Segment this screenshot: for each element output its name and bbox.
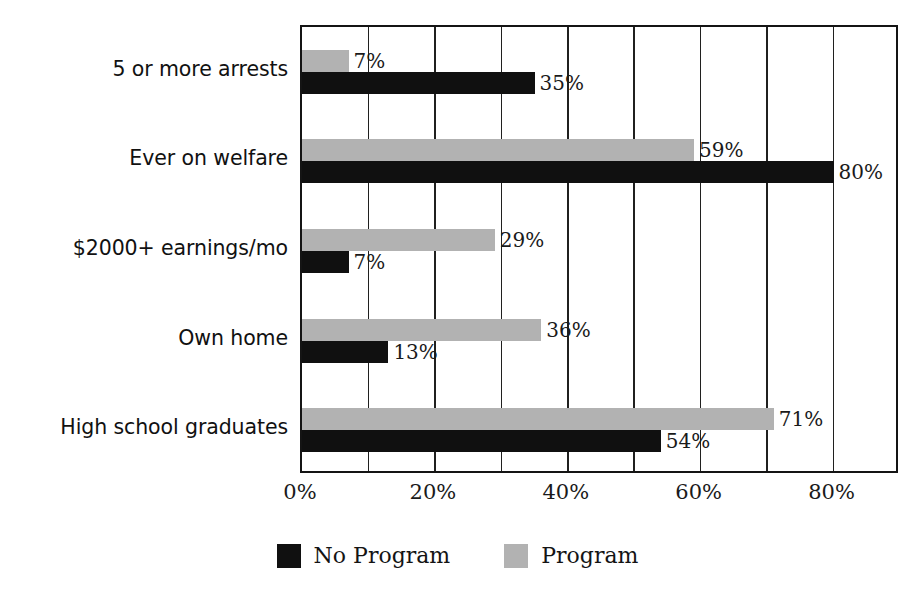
bar-value-program-4: 71%: [774, 408, 823, 430]
category-label-earnings: $2000+ earnings/mo: [0, 238, 288, 259]
bar-value-program-0: 7%: [349, 50, 386, 72]
bar-value-no-program-2: 7%: [349, 251, 386, 273]
legend-label-no-program: No Program: [314, 545, 451, 567]
category-label-hs-graduates: High school graduates: [0, 417, 288, 438]
bar-value-no-program-3: 13%: [388, 341, 437, 363]
bar-program-1: [302, 139, 694, 161]
x-tick-label-60: 60%: [675, 481, 722, 503]
plot-area: 7%35%59%80%29%7%36%13%71%54%: [300, 25, 898, 473]
bar-no-program-0: [302, 72, 535, 94]
bar-value-program-2: 29%: [495, 229, 544, 251]
legend-swatch-no-program: [277, 544, 301, 568]
bar-value-no-program-0: 35%: [535, 72, 584, 94]
legend-item-program: Program: [504, 544, 638, 568]
bar-value-no-program-1: 80%: [834, 161, 883, 183]
bar-program-2: [302, 229, 495, 251]
bar-value-no-program-4: 54%: [661, 430, 710, 452]
chart-legend: No Program Program: [0, 536, 915, 576]
x-tick-label-80: 80%: [808, 481, 855, 503]
x-tick-label-20: 20%: [410, 481, 457, 503]
bars-layer: 7%35%59%80%29%7%36%13%71%54%: [302, 27, 896, 471]
category-axis-labels: 5 or more arrests Ever on welfare $2000+…: [0, 25, 288, 473]
category-label-arrests: 5 or more arrests: [0, 59, 288, 80]
bar-no-program-1: [302, 161, 834, 183]
bar-program-4: [302, 408, 774, 430]
category-label-welfare: Ever on welfare: [0, 148, 288, 169]
bar-value-program-3: 36%: [541, 319, 590, 341]
category-label-own-home: Own home: [0, 328, 288, 349]
x-tick-label-0: 0%: [283, 481, 316, 503]
bar-chart: 5 or more arrests Ever on welfare $2000+…: [0, 0, 915, 589]
x-tick-label-40: 40%: [542, 481, 589, 503]
bar-no-program-2: [302, 251, 349, 273]
legend-swatch-program: [504, 544, 528, 568]
bar-value-program-1: 59%: [694, 139, 743, 161]
legend-label-program: Program: [541, 545, 638, 567]
bar-no-program-3: [302, 341, 388, 363]
x-axis-tick-labels: 0%20%40%60%80%: [300, 481, 898, 511]
bar-program-0: [302, 50, 349, 72]
legend-item-no-program: No Program: [277, 544, 451, 568]
bar-no-program-4: [302, 430, 661, 452]
bar-program-3: [302, 319, 541, 341]
